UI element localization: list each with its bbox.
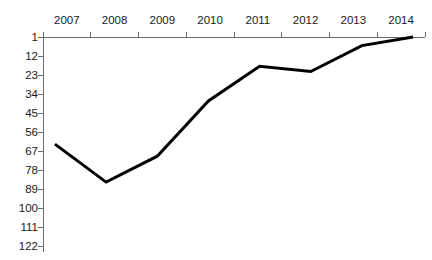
y-tick-label-78: 78 [25,164,38,176]
series-line-1 [55,37,413,182]
y-tick-label-111: 111 [21,221,38,233]
x-tick-label-2012: 2012 [293,14,319,26]
y-tick-label-34: 34 [25,88,38,100]
data-series-layer [55,37,413,182]
x-tick-label-2010: 2010 [197,14,223,26]
x-tick-label-2009: 2009 [150,14,176,26]
x-tick-label-2013: 2013 [341,14,367,26]
x-tick-label-2011: 2011 [246,14,271,26]
x-tick-label-2014: 2014 [388,14,414,26]
y-tick-label-56: 56 [25,126,38,138]
y-tick-label-1: 1 [32,31,38,43]
y-tick-label-100: 100 [19,202,38,214]
axis-lines [43,37,425,252]
y-tick-label-67: 67 [25,145,38,157]
y-tick-label-12: 12 [25,50,38,62]
y-tick-label-89: 89 [25,183,38,195]
x-tick-label-2008: 2008 [102,14,128,26]
x-tick-label-2007: 2007 [54,14,80,26]
y-tick-label-45: 45 [25,107,38,119]
y-tick-label-23: 23 [25,69,38,81]
rank-line-chart: 20072008200920102011201220132014 1122334… [0,0,432,260]
axis-ticks [38,32,425,246]
chart-plot-area [0,0,432,260]
y-tick-label-122: 122 [19,240,38,252]
